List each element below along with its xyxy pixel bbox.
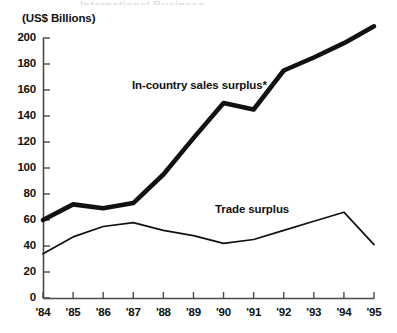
x-axis-tick-label: '90	[207, 306, 241, 318]
series-line-in-country-sales-surplus	[43, 26, 374, 220]
y-axis-tick-label: 0	[2, 291, 36, 303]
x-axis-ticks	[43, 292, 374, 298]
x-axis-tick-label: '87	[116, 306, 150, 318]
y-axis-tick-label: 80	[2, 187, 36, 199]
y-axis-tick-label: 140	[2, 109, 36, 121]
y-axis-tick-label: 40	[2, 239, 36, 251]
series-label-trade-surplus: Trade surplus	[215, 203, 289, 215]
x-axis-tick-label: '93	[297, 306, 331, 318]
chart-container: International Business (US$ Billions) 02…	[0, 0, 397, 333]
series-label-in-country-sales-surplus: In-country sales surplus*	[132, 79, 267, 91]
x-axis-tick-label: '88	[146, 306, 180, 318]
y-axis-tick-label: 60	[2, 213, 36, 225]
axis-lines	[43, 38, 375, 299]
y-axis-tick-label: 100	[2, 161, 36, 173]
x-axis-tick-label: '95	[357, 306, 391, 318]
x-axis-tick-label: '91	[237, 306, 271, 318]
y-axis-tick-label: 180	[2, 57, 36, 69]
x-axis-tick-label: '89	[176, 306, 210, 318]
y-axis-tick-label: 20	[2, 265, 36, 277]
x-axis-tick-label: '84	[26, 306, 60, 318]
chart-plot-svg	[0, 0, 397, 333]
y-axis-tick-label: 120	[2, 135, 36, 147]
x-axis-tick-label: '85	[56, 306, 90, 318]
x-axis-tick-label: '94	[327, 306, 361, 318]
x-axis-tick-label: '86	[86, 306, 120, 318]
y-axis-tick-label: 160	[2, 83, 36, 95]
x-axis-tick-label: '92	[267, 306, 301, 318]
y-axis-tick-label: 200	[2, 31, 36, 43]
series-line-trade-surplus	[43, 212, 374, 254]
